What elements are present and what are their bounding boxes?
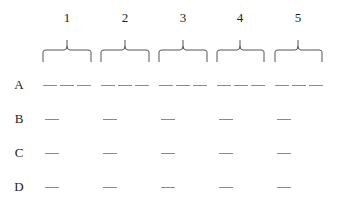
answer-blank: [193, 85, 207, 86]
row-label-c: C: [12, 145, 26, 161]
row-label-b: B: [12, 111, 26, 127]
answer-blank: [135, 85, 149, 86]
brace-icon: [217, 40, 264, 62]
answer-blank: [176, 85, 190, 86]
answer-blank: [309, 85, 323, 86]
answer-blank: [45, 153, 59, 154]
answer-blank: [277, 119, 291, 120]
answer-blank: [277, 153, 291, 154]
brace-icon: [159, 40, 207, 62]
answer-blank: [234, 85, 248, 86]
answer-blank: [251, 85, 265, 86]
answer-blank: [77, 85, 91, 86]
col-label-5: 5: [288, 10, 308, 26]
answer-blank: [103, 119, 117, 120]
col-label-2: 2: [115, 10, 135, 26]
col-label-1: 1: [57, 10, 77, 26]
answer-blank: [161, 153, 175, 154]
answer-blank: [103, 153, 117, 154]
answer-blank: [161, 187, 175, 188]
answer-blank: [219, 119, 233, 120]
answer-blank: [103, 187, 117, 188]
brace-icon: [101, 40, 149, 62]
answer-blank: [43, 85, 57, 86]
answer-blank: [60, 85, 74, 86]
answer-blank: [292, 85, 306, 86]
brace-icon: [275, 40, 322, 62]
answer-blank: [219, 187, 233, 188]
answer-blank: [159, 85, 173, 86]
answer-blank: [275, 85, 289, 86]
answer-blank: [219, 153, 233, 154]
col-label-3: 3: [173, 10, 193, 26]
answer-blank: [161, 119, 175, 120]
col-label-4: 4: [230, 10, 250, 26]
row-label-d: D: [12, 179, 26, 195]
answer-blank: [45, 119, 59, 120]
column-braces: [0, 0, 342, 197]
answer-blank: [277, 187, 291, 188]
answer-blank: [118, 85, 132, 86]
row-label-a: A: [12, 77, 26, 93]
answer-blank: [217, 85, 231, 86]
brace-icon: [43, 40, 91, 62]
answer-blank: [45, 187, 59, 188]
answer-blank: [101, 85, 115, 86]
